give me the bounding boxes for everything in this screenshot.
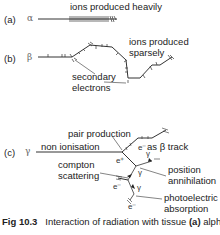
- symbol-e-minus-3: e⁻: [128, 202, 136, 211]
- caption-tail: alpha: [203, 216, 220, 227]
- figure-caption: Fig 10.3 Interaction of radiation with t…: [2, 216, 220, 227]
- alpha-symbol: α: [27, 13, 33, 23]
- symbol-e-minus-2: e⁻: [113, 182, 121, 191]
- caption-part: (a): [189, 216, 201, 227]
- part-label-b: (b): [4, 53, 16, 64]
- annihilation-gamma-1: [136, 161, 152, 166]
- symbol-gamma-1: γ: [146, 149, 150, 158]
- part-label-a: (a): [4, 14, 16, 25]
- label-photo-2: absorption: [164, 204, 208, 214]
- annihilation-leader: [140, 168, 166, 176]
- gamma-ion-ticks: [116, 128, 169, 204]
- label-photo-1: photoelectric: [164, 193, 218, 203]
- compton-leader: [100, 173, 128, 178]
- label-position-2: annihilation: [168, 176, 216, 186]
- label-ions-sparsely-1: ions produced: [129, 37, 189, 47]
- gamma-symbol: γ: [25, 146, 30, 156]
- label-secondary-2: electrons: [72, 83, 111, 93]
- label-compton-1: compton: [58, 160, 94, 170]
- caption-number: Fig 10.3: [2, 216, 37, 227]
- symbol-gamma-3: γ: [137, 183, 141, 192]
- photoelectric-path: [128, 180, 134, 200]
- label-ions-sparsely-2: sparsely: [129, 48, 164, 58]
- symbol-gamma-2: γ: [138, 168, 142, 177]
- caption-text: Interaction of radiation with tissue: [45, 216, 186, 227]
- label-secondary-1: secondary: [72, 72, 116, 82]
- beta-symbol: β: [27, 52, 32, 62]
- photo-leader: [136, 196, 162, 199]
- part-label-c: (c): [4, 147, 15, 158]
- label-compton-2: scattering: [58, 171, 99, 181]
- symbol-e-plus: e⁺: [116, 156, 124, 165]
- label-non-ionisation: non ionisation: [41, 142, 100, 152]
- label-ions-heavily: ions produced heavily: [70, 2, 162, 12]
- gamma-arrow-2: [127, 174, 132, 178]
- annihilation-gamma-2: [128, 166, 136, 180]
- label-pair-production: pair production: [68, 129, 131, 139]
- label-as-beta-track: as β track: [147, 142, 188, 152]
- label-position-1: position: [168, 165, 201, 175]
